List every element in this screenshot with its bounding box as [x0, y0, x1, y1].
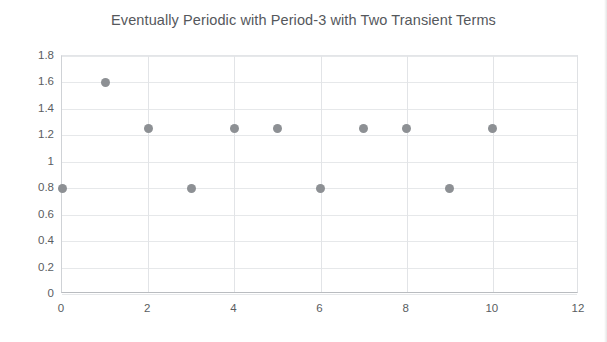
scatter-chart: Eventually Periodic with Period-3 with T…	[0, 0, 607, 342]
x-tick-label: 12	[558, 302, 598, 314]
data-point	[187, 184, 196, 193]
x-axis-tick-labels: 024681012	[61, 302, 578, 320]
x-tick-label: 4	[213, 302, 253, 314]
gridline-y-7	[62, 109, 577, 110]
data-point	[273, 124, 282, 133]
gridline-x-3	[321, 56, 322, 292]
y-tick-label: 0.4	[4, 234, 54, 246]
gridline-y-2	[62, 241, 577, 242]
y-axis-tick-labels: 00.20.40.60.811.21.41.61.8	[0, 55, 54, 293]
x-tick-label: 2	[127, 302, 167, 314]
y-tick-label: 0	[4, 287, 54, 299]
gridline-y-0	[62, 294, 577, 295]
gridline-y-9	[62, 56, 577, 57]
gridline-x-5	[493, 56, 494, 292]
data-point	[58, 184, 67, 193]
data-point	[402, 124, 411, 133]
gridline-y-5	[62, 162, 577, 163]
gridline-y-8	[62, 82, 577, 83]
y-tick-label: 0.6	[4, 208, 54, 220]
chart-title: Eventually Periodic with Period-3 with T…	[0, 12, 607, 28]
data-point	[144, 124, 153, 133]
gridline-x-4	[407, 56, 408, 292]
data-point	[488, 124, 497, 133]
gridline-x-1	[148, 56, 149, 292]
data-point	[316, 184, 325, 193]
y-tick-label: 1.4	[4, 102, 54, 114]
y-tick-label: 1.2	[4, 128, 54, 140]
data-point	[359, 124, 368, 133]
gridline-x-2	[234, 56, 235, 292]
y-tick-label: 0.2	[4, 261, 54, 273]
x-tick-label: 6	[300, 302, 340, 314]
y-tick-label: 1	[4, 155, 54, 167]
gridline-y-6	[62, 135, 577, 136]
x-tick-label: 10	[472, 302, 512, 314]
gridline-y-3	[62, 215, 577, 216]
y-tick-label: 1.8	[4, 49, 54, 61]
y-tick-label: 1.6	[4, 75, 54, 87]
x-tick-label: 8	[386, 302, 426, 314]
data-point	[101, 78, 110, 87]
data-point	[445, 184, 454, 193]
x-tick-label: 0	[41, 302, 81, 314]
y-tick-label: 0.8	[4, 181, 54, 193]
plot-area	[61, 55, 578, 293]
data-point	[230, 124, 239, 133]
gridline-y-1	[62, 268, 577, 269]
